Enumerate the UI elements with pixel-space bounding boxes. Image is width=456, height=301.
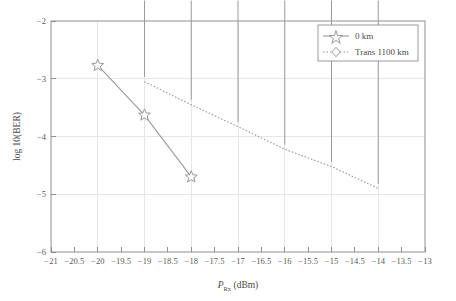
- y-tick-label: −4: [37, 132, 47, 142]
- x-tick-label: −13.5: [392, 256, 412, 266]
- y-tick-label: −3: [37, 74, 46, 84]
- x-axis-title-unit: (dBm): [231, 280, 258, 291]
- x-tick-label: −15.5: [298, 256, 318, 266]
- x-tick-label: −18.5: [158, 256, 178, 266]
- x-tick-label: −16.5: [252, 256, 272, 266]
- x-tick-label: −17.5: [205, 256, 225, 266]
- y-tick-label: −5: [37, 189, 46, 199]
- x-tick-label: −17: [231, 256, 244, 266]
- x-tick-label: −18: [185, 256, 198, 266]
- legend-item-trans-1100-km[interactable]: Trans 1100 km: [323, 47, 409, 57]
- chart-figure: −2 −3 −4 −5 −6 −21: [0, 0, 456, 301]
- x-tick-label: −15: [325, 256, 338, 266]
- y-tick-label: −2: [37, 16, 46, 26]
- x-tick-label: −14: [372, 256, 386, 266]
- chart-legend: 0 km Trans 1100 km: [318, 25, 418, 61]
- x-tick-label: −13: [418, 256, 431, 266]
- x-tick-label: −19: [138, 256, 151, 266]
- y-axis-title: log 10(BER): [12, 112, 23, 161]
- ber-vs-received-power-chart: −2 −3 −4 −5 −6 −21: [0, 0, 456, 301]
- legend-label: 0 km: [355, 31, 373, 41]
- x-axis-tick-labels: −21 −20.5 −20 −19.5 −19 −18.5 −18 −17.5 …: [44, 256, 431, 266]
- x-tick-label: −20.5: [65, 256, 85, 266]
- legend-label: Trans 1100 km: [355, 47, 409, 57]
- y-axis-tick-labels: −2 −3 −4 −5 −6: [37, 16, 47, 257]
- x-tick-label: −14.5: [345, 256, 365, 266]
- x-tick-label: −16: [278, 256, 291, 266]
- x-axis-title: PRx (dBm): [217, 280, 259, 292]
- x-tick-label: −20: [91, 256, 104, 266]
- x-tick-label: −19.5: [111, 256, 131, 266]
- x-tick-label: −21: [44, 256, 57, 266]
